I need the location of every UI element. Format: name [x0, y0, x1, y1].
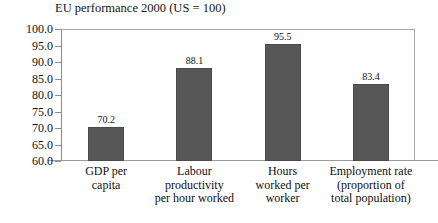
- y-axis-tick: [55, 62, 61, 63]
- y-axis-tick: [55, 29, 61, 30]
- y-axis-tick-label: 75.0: [32, 106, 53, 118]
- y-axis-tick: [55, 128, 61, 129]
- x-axis-category-label: Hoursworked perworker: [239, 165, 327, 206]
- y-axis-tick-label: 90.0: [32, 56, 53, 68]
- y-axis-tick-label: 85.0: [32, 73, 53, 85]
- y-axis-tick-label: 80.0: [32, 89, 53, 101]
- x-axis-category-label-line: Labour: [150, 165, 238, 179]
- x-axis-category-label-line: GDP per: [62, 165, 150, 179]
- y-axis-tick-label: 65.0: [32, 139, 53, 151]
- y-axis-line: [61, 29, 62, 161]
- bar-value-label: 83.4: [341, 72, 401, 82]
- y-axis-tick-label: 70.0: [32, 122, 53, 134]
- bar-chart: EU performance 2000 (US = 100) 100.095.0…: [0, 0, 438, 223]
- bar-value-label: 88.1: [164, 56, 224, 66]
- x-axis-category-label: Labourproductivityper hour worked: [150, 165, 238, 206]
- y-axis-tick-label: 60.0: [32, 155, 53, 167]
- y-axis-tick: [55, 112, 61, 113]
- bar-value-label: 95.5: [253, 32, 313, 42]
- x-axis-category-label-line: productivity: [150, 179, 238, 193]
- y-axis-tick: [55, 95, 61, 96]
- x-axis-category-label-line: Employment rate: [327, 165, 415, 179]
- y-axis-tick: [55, 145, 61, 146]
- x-axis-category-label-line: total population): [327, 192, 415, 206]
- x-axis-category-label-line: Hours: [239, 165, 327, 179]
- y-axis-tick-label: 95.0: [32, 40, 53, 52]
- x-axis-category-label-line: worker: [239, 192, 327, 206]
- y-axis-tick: [55, 79, 61, 80]
- bar: [265, 44, 301, 161]
- bar: [353, 84, 389, 161]
- x-axis-category-label-line: capita: [62, 179, 150, 193]
- y-axis-tick-label: 100.0: [26, 23, 53, 35]
- bar: [88, 127, 124, 161]
- bar: [176, 68, 212, 161]
- x-axis-category-label-line: per hour worked: [150, 192, 238, 206]
- x-axis-category-label-line: (proportion of: [327, 179, 415, 193]
- x-axis-category-label: GDP percapita: [62, 165, 150, 192]
- bar-value-label: 70.2: [76, 115, 136, 125]
- x-axis-category-label-line: worked per: [239, 179, 327, 193]
- x-axis-category-label: Employment rate(proportion oftotal popul…: [327, 165, 415, 206]
- chart-title: EU performance 2000 (US = 100): [55, 1, 226, 15]
- y-axis-tick: [55, 46, 61, 47]
- y-axis-tick: [55, 161, 61, 162]
